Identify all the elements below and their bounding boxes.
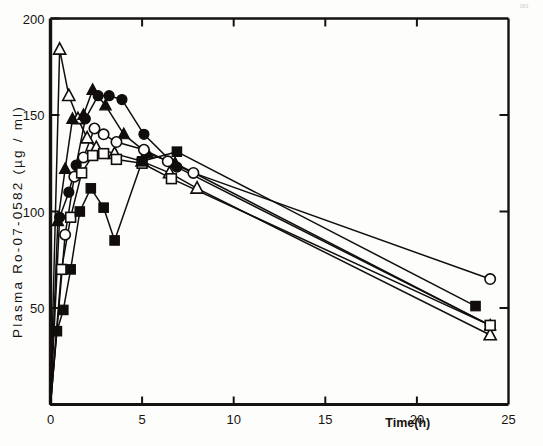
series-markers-2 [52,84,496,330]
data-point-square-filled [66,265,75,274]
data-point-square-open [77,168,87,178]
x-tick-label-10: 10 [226,412,240,427]
data-point-square-filled [471,301,480,310]
series-line-1 [51,49,491,404]
data-point-triangle-open [191,182,203,193]
data-point-circle-filled [139,129,149,139]
series-markers-5 [57,149,495,331]
data-point-square-open [112,154,122,164]
data-point-square-open [99,149,109,159]
data-point-circle-open [60,229,70,239]
y-tick-label-150: 150 [23,108,45,123]
data-point-triangle-filled [59,163,70,174]
data-point-square-open [88,151,98,161]
corner-page-note: 383 [520,3,529,9]
x-tick-label-5: 5 [138,412,145,427]
data-point-square-filled [137,157,146,166]
x-axis-tick-labels: 0510152025 [47,412,516,427]
data-point-circle-open [111,137,121,147]
data-point-circle-filled [104,91,114,101]
data-point-square-open [485,320,495,330]
figure-page: 0510152025 50100150200 Time(h)Plasma Ro-… [0,0,543,446]
data-point-triangle-open [63,89,75,100]
data-point-circle-open [485,274,495,284]
series-markers-6 [52,147,480,336]
data-point-circle-filled [80,114,90,124]
data-point-circle-filled [64,187,74,197]
x-tick-label-15: 15 [318,412,332,427]
data-point-triangle-open [54,43,66,54]
series-line-4 [51,129,491,405]
data-point-circle-open [163,156,173,166]
data-point-square-filled [110,236,119,245]
y-tick-label-200: 200 [23,12,45,27]
page-number-note: 383 [520,3,529,9]
data-point-circle-filled [55,212,65,222]
data-point-square-filled [52,326,61,335]
x-tick-label-25: 25 [501,412,515,427]
y-axis-tick-labels: 50100150200 [23,12,45,317]
data-point-square-filled [172,147,181,156]
data-point-circle-open [188,168,198,178]
y-tick-label-100: 100 [23,205,45,220]
y-axis-title: Plasma Ro-07-0582 (µg / ml) [10,105,25,338]
x-axis-ticks [142,19,417,405]
data-point-square-filled [59,305,68,314]
y-tick-label-50: 50 [30,301,44,316]
x-tick-label-0: 0 [47,412,54,427]
data-point-circle-filled [117,95,127,105]
data-point-square-open [66,212,76,222]
series-lines-group [51,49,491,404]
plot-frame [51,19,509,405]
data-point-circle-open [98,129,108,139]
data-point-square-open [167,174,177,184]
plasma-concentration-chart: 0510152025 50100150200 Time(h)Plasma Ro-… [0,0,543,446]
data-point-circle-filled [172,162,182,172]
data-point-square-filled [86,184,95,193]
data-point-circle-filled [93,91,103,101]
data-point-square-filled [75,207,84,216]
data-point-square-filled [99,203,108,212]
x-axis-title: Time(h) [385,416,430,430]
series-line-6 [51,152,476,405]
data-point-circle-open [139,145,149,155]
data-point-square-open [57,265,67,275]
